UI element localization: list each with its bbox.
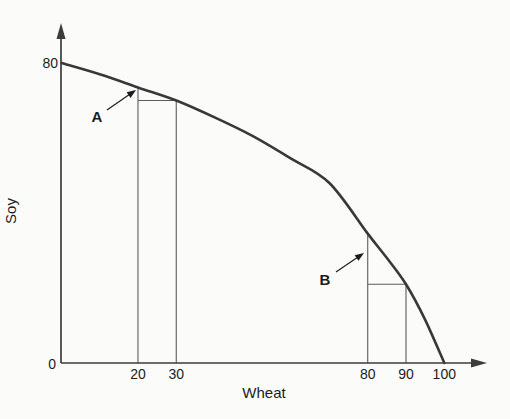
- ppf-chart: 80 0 20308090100 Wheat Soy AB: [0, 0, 510, 419]
- x-tick-label-100: 100: [433, 366, 457, 382]
- annotation-B-label: B: [320, 271, 331, 288]
- annotation-B-arrowhead-icon: [355, 253, 364, 261]
- y-axis-max-label: 80: [42, 55, 58, 71]
- guide-lines: [138, 87, 406, 363]
- y-axis-title: Soy: [2, 198, 19, 224]
- annotation-A-arrowhead-icon: [127, 90, 136, 98]
- y-axis-arrowhead-icon: [57, 23, 66, 39]
- x-axis-arrowhead-icon: [471, 359, 487, 368]
- annotation-B-arrow-line: [336, 256, 360, 272]
- x-tick-label-30: 30: [169, 366, 185, 382]
- x-tick-label-80: 80: [360, 366, 376, 382]
- production-possibilities-frontier: [61, 63, 444, 363]
- annotation-A-arrow-line: [107, 93, 132, 110]
- x-tick-labels: 20308090100: [130, 366, 456, 382]
- annotation-A-label: A: [92, 108, 103, 125]
- origin-label: 0: [48, 356, 56, 372]
- x-tick-label-20: 20: [130, 366, 146, 382]
- x-axis-title: Wheat: [242, 384, 286, 401]
- ppf-figure: 80 0 20308090100 Wheat Soy AB: [0, 0, 510, 419]
- frontier-curve-group: [61, 63, 444, 363]
- x-tick-label-90: 90: [398, 366, 414, 382]
- annotations: AB: [92, 90, 364, 288]
